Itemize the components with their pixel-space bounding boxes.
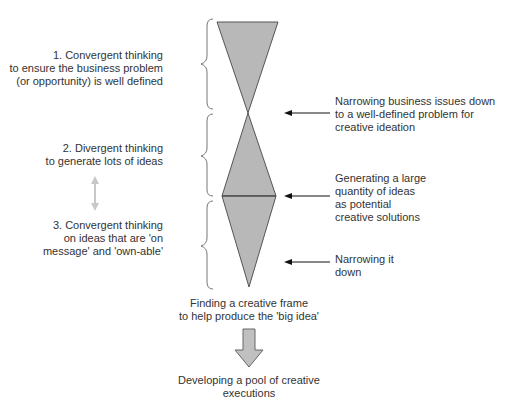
divergent-triangle [222, 113, 276, 196]
right-label-narrowing-down: Narrowing it down [335, 253, 394, 279]
right-label-generating-ideas: Generating a large quantity of ideas as … [335, 172, 426, 224]
convergent-triangle-1 [217, 22, 278, 113]
brace-2 [201, 114, 213, 196]
arrow-left-icon [284, 259, 330, 265]
brace-3 [201, 201, 213, 289]
left-label-convergent-1: 1. Convergent thinking to ensure the bus… [10, 49, 163, 88]
double-arrow-icon [91, 176, 99, 211]
left-label-divergent: 2. Divergent thinking to generate lots o… [46, 142, 163, 168]
brace-1 [201, 19, 213, 109]
creative-executions-label: Developing a pool of creative executions [149, 374, 349, 400]
arrow-left-icon [284, 110, 330, 116]
convergent-triangle-2 [222, 196, 276, 287]
arrow-left-icon [284, 193, 330, 199]
big-down-arrow-icon [235, 329, 263, 367]
left-label-convergent-2: 3. Convergent thinking on ideas that are… [43, 219, 163, 258]
creative-frame-label: Finding a creative frame to help produce… [149, 297, 349, 323]
right-label-narrowing-issues: Narrowing business issues down to a well… [335, 95, 495, 134]
